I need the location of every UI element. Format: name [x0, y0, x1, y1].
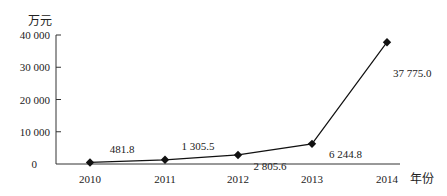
x-tick-label: 2010	[79, 173, 102, 185]
x-axis: 20102011201220132014	[56, 164, 400, 185]
data-label: 6 244.8	[329, 148, 363, 160]
y-axis-unit-label: 万元	[28, 14, 52, 28]
x-tick-label: 2011	[154, 173, 176, 185]
data-series: 481.81 305.52 805.66 244.837 775.0	[86, 38, 432, 172]
data-label: 2 805.6	[254, 160, 288, 172]
diamond-marker	[161, 156, 169, 164]
x-axis-unit-label: 年份	[410, 172, 434, 186]
line-chart: 万元 010 00020 00030 00040 000 20102011201…	[0, 0, 447, 196]
diamond-marker	[234, 151, 242, 159]
data-label: 481.8	[110, 143, 135, 155]
y-axis: 010 00020 00030 00040 000	[20, 29, 61, 170]
y-tick-label: 10 000	[20, 126, 51, 138]
diamond-marker	[308, 140, 316, 148]
y-tick-label: 40 000	[20, 29, 51, 41]
diamond-marker	[383, 38, 391, 46]
data-label: 1 305.5	[182, 140, 216, 152]
diamond-marker	[86, 158, 94, 166]
x-tick-label: 2013	[301, 173, 324, 185]
data-label: 37 775.0	[393, 67, 432, 79]
x-tick-label: 2014	[376, 173, 399, 185]
y-tick-label: 20 000	[20, 94, 51, 106]
y-tick-label: 30 000	[20, 61, 51, 73]
y-tick-label: 0	[32, 158, 38, 170]
x-tick-label: 2012	[227, 173, 249, 185]
